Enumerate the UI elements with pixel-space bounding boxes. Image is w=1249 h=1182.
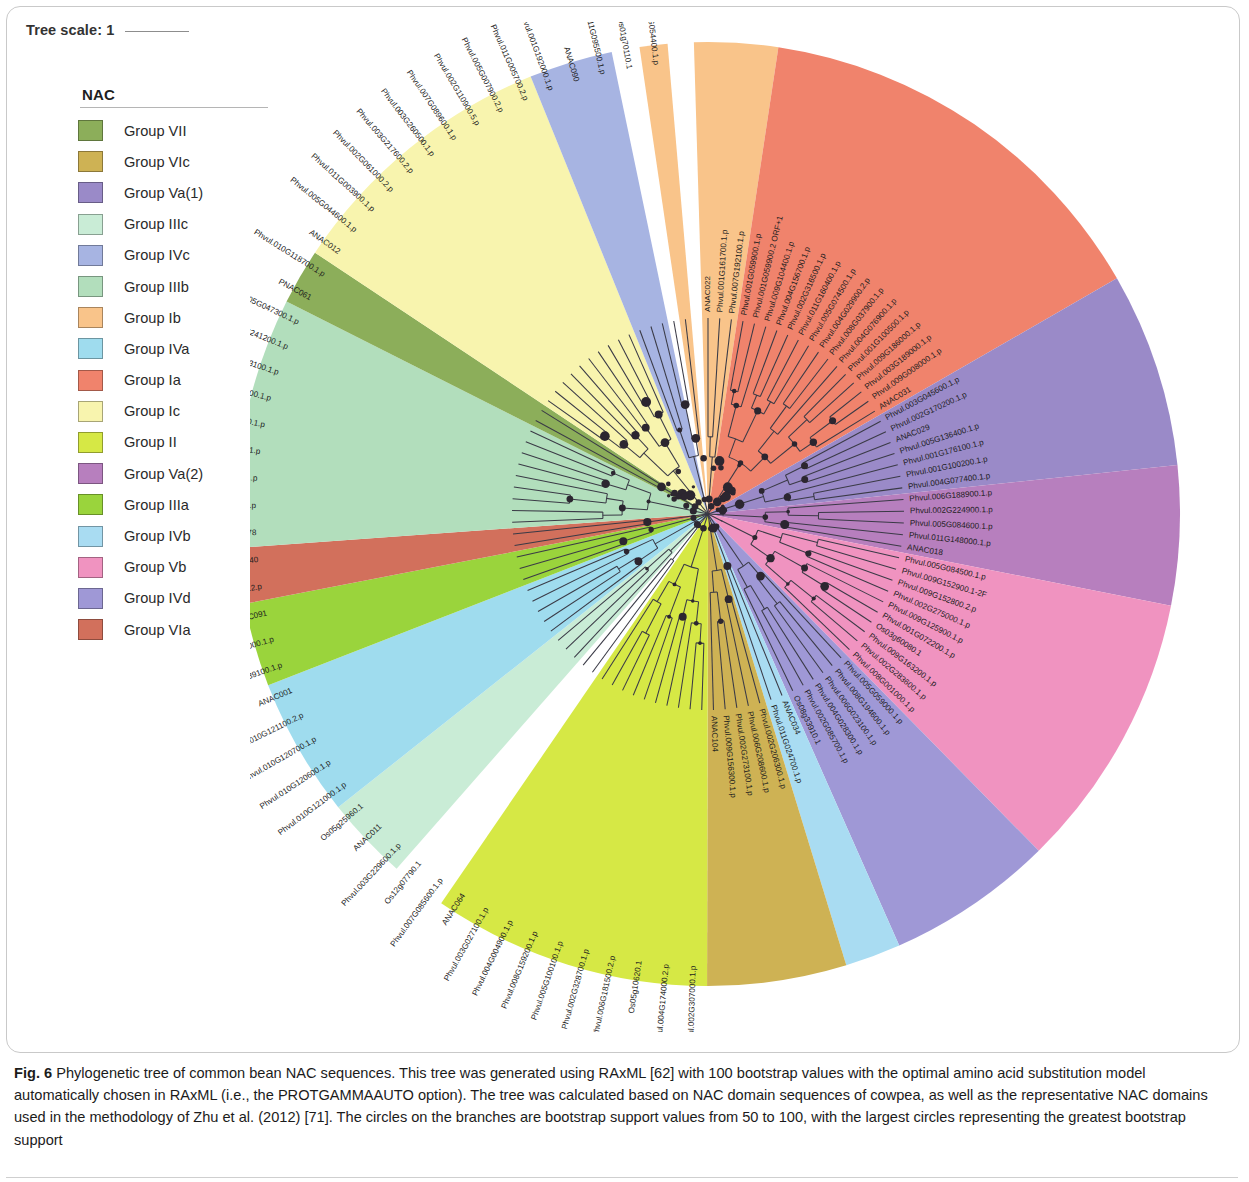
bootstrap-circle <box>691 434 700 443</box>
legend-color-swatch <box>78 432 103 453</box>
bootstrap-circle <box>716 507 721 512</box>
bootstrap-circle <box>718 465 724 471</box>
tip-label: Os12g07790.1 <box>382 859 423 906</box>
legend-item[interactable]: Group IVd <box>78 583 278 614</box>
bootstrap-circle <box>756 572 765 581</box>
bootstrap-circle <box>780 520 789 529</box>
bootstrap-circle <box>700 455 707 462</box>
bootstrap-circle <box>715 456 725 466</box>
legend-color-swatch <box>78 120 103 141</box>
bootstrap-circle <box>641 397 651 407</box>
tree-scale-label: Tree scale: 1 <box>26 22 114 38</box>
bootstrap-circle <box>812 596 816 600</box>
legend-item-label: Group VIc <box>124 154 190 170</box>
bootstrap-circle <box>691 515 697 521</box>
legend-item[interactable]: Group Ic <box>78 396 278 427</box>
bootstrap-circle <box>667 615 671 619</box>
bootstrap-circle <box>692 485 695 488</box>
bootstrap-circle <box>667 494 670 497</box>
legend-color-swatch <box>78 494 103 515</box>
bootstrap-circle <box>679 613 687 621</box>
bootstrap-circle <box>620 440 629 449</box>
bootstrap-circle <box>759 488 765 494</box>
legend-color-swatch <box>78 463 103 484</box>
bootstrap-circle <box>673 582 677 586</box>
bootstrap-circle <box>725 595 733 603</box>
bootstrap-circle <box>694 621 699 626</box>
bootstrap-circle <box>786 582 790 586</box>
bootstrap-circle <box>792 441 797 446</box>
bootstrap-circle <box>634 557 642 565</box>
legend-item[interactable]: Group Va(1) <box>78 177 278 208</box>
phylogenetic-tree: ANAC022Phvul.001G161700.1.pPhvul.007G192… <box>250 22 1230 1032</box>
bootstrap-circle <box>711 466 717 472</box>
legend-color-swatch <box>78 276 103 297</box>
legend-color-swatch <box>78 370 103 391</box>
tree-scale-bar-icon <box>125 31 189 32</box>
legend-item[interactable]: Group Va(2) <box>78 458 278 489</box>
legend-item-label: Group Vb <box>124 559 186 575</box>
legend-item[interactable]: Group Ia <box>78 365 278 396</box>
bootstrap-circle <box>732 389 737 394</box>
legend-item-label: Group IVa <box>124 341 189 357</box>
legend-item-label: Group IVd <box>124 590 191 606</box>
tree-scale: Tree scale: 1 <box>26 22 189 38</box>
legend-divider <box>80 107 268 108</box>
legend-item[interactable]: Group Ib <box>78 302 278 333</box>
legend-item[interactable]: Group IIIb <box>78 271 278 302</box>
bootstrap-circle <box>619 537 627 545</box>
bootstrap-circle <box>733 403 739 409</box>
legend-item[interactable]: Group IVc <box>78 240 278 271</box>
legend-item[interactable]: Group IVa <box>78 333 278 364</box>
legend-item[interactable]: Group VIc <box>78 146 278 177</box>
legend-item[interactable]: Group VIa <box>78 614 278 645</box>
legend-item[interactable]: Group IIIa <box>78 489 278 520</box>
bootstrap-circle <box>801 462 808 469</box>
bootstrap-circle <box>801 565 808 572</box>
legend-color-swatch <box>78 557 103 578</box>
bootstrap-circle <box>721 504 725 508</box>
bootstrap-circle <box>820 582 829 591</box>
legend-item[interactable]: Group VII <box>78 115 278 146</box>
tip-label: Phvul.002G224900.1.p <box>910 505 993 515</box>
legend-color-swatch <box>78 245 103 266</box>
legend-color-swatch <box>78 588 103 609</box>
bootstrap-circle <box>801 476 808 483</box>
bootstrap-circle <box>737 464 741 468</box>
legend-color-swatch <box>78 214 103 235</box>
legend-title: NAC <box>82 86 278 103</box>
bootstrap-circle <box>829 417 836 424</box>
bootstrap-circle <box>647 499 651 503</box>
tip-label: Phvul.002G307000.1.p <box>686 965 698 1032</box>
legend-item[interactable]: Group IIIc <box>78 209 278 240</box>
bootstrap-circle <box>700 525 707 532</box>
tip-label: ANAC022 <box>703 276 712 312</box>
bootstrap-circle <box>648 527 653 532</box>
legend-item-label: Group Ia <box>124 372 181 388</box>
bootstrap-circle <box>619 505 626 512</box>
legend-item-label: Group VIa <box>124 622 191 638</box>
legend-item[interactable]: Group II <box>78 427 278 458</box>
legend-item-label: Group IIIb <box>124 279 189 295</box>
legend-color-swatch <box>78 401 103 422</box>
legend-item-label: Group Va(2) <box>124 466 203 482</box>
tree-svg: ANAC022Phvul.001G161700.1.pPhvul.007G192… <box>250 22 1230 1032</box>
legend-item[interactable]: Group IVb <box>78 520 278 551</box>
bootstrap-circle <box>721 492 730 501</box>
bootstrap-circle <box>691 599 695 603</box>
bootstrap-circle <box>754 407 761 414</box>
bootstrap-circle <box>624 549 629 554</box>
legend: NAC Group VIIGroup VIcGroup Va(1)Group I… <box>78 86 278 645</box>
bootstrap-circle <box>600 431 610 441</box>
legend-item[interactable]: Group Vb <box>78 552 278 583</box>
tip-label: ANAC104 <box>710 716 720 753</box>
bootstrap-circle <box>643 518 651 526</box>
bootstrap-circle <box>708 503 714 509</box>
bootstrap-circle <box>681 400 690 409</box>
bootstrap-circle <box>681 493 688 500</box>
bootstrap-circle <box>784 494 791 501</box>
bootstrap-circle <box>805 550 811 556</box>
caption-body: Phylogenetic tree of common bean NAC seq… <box>14 1065 1208 1148</box>
bootstrap-circle <box>666 482 671 487</box>
bootstrap-circle <box>735 499 744 508</box>
